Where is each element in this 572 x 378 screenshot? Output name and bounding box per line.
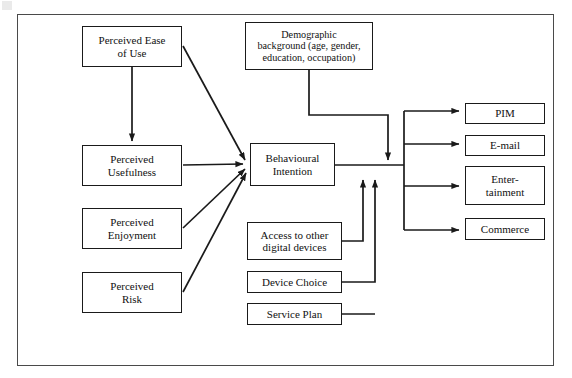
node-label: Perceived Usefulness: [105, 153, 159, 178]
node-perceived-ease-of-use[interactable]: Perceived Ease of Use: [82, 26, 182, 67]
node-perceived-usefulness[interactable]: Perceived Usefulness: [82, 145, 182, 186]
node-label: Device Choice: [259, 276, 330, 288]
node-access-to-other-digital-devices[interactable]: Access to other digital devices: [247, 222, 342, 260]
node-perceived-risk[interactable]: Perceived Risk: [82, 272, 182, 313]
diagram-canvas: Perceived Ease of Use Demographic backgr…: [0, 0, 572, 378]
node-service-plan[interactable]: Service Plan: [247, 303, 342, 325]
node-label: Enter- tainment: [483, 173, 528, 198]
node-email[interactable]: E-mail: [465, 135, 545, 156]
node-label: Perceived Ease of Use: [96, 34, 169, 59]
node-entertainment[interactable]: Enter- tainment: [465, 166, 545, 205]
node-device-choice[interactable]: Device Choice: [247, 271, 342, 293]
node-perceived-enjoyment[interactable]: Perceived Enjoyment: [82, 208, 182, 249]
node-label: Access to other digital devices: [258, 229, 332, 254]
node-commerce[interactable]: Commerce: [465, 218, 545, 240]
node-pim[interactable]: PIM: [465, 103, 545, 124]
node-label: PIM: [492, 107, 518, 119]
node-label: Demographic background (age, gender, edu…: [254, 29, 363, 63]
node-label: Service Plan: [264, 308, 325, 320]
node-label: Perceived Risk: [107, 280, 156, 305]
node-label: Commerce: [478, 223, 532, 235]
node-demographic-background[interactable]: Demographic background (age, gender, edu…: [245, 22, 373, 70]
node-behavioural-intention[interactable]: Behavioural Intention: [250, 143, 335, 186]
node-label: E-mail: [487, 139, 523, 151]
node-label: Behavioural Intention: [263, 152, 323, 177]
node-label: Perceived Enjoyment: [105, 216, 159, 241]
